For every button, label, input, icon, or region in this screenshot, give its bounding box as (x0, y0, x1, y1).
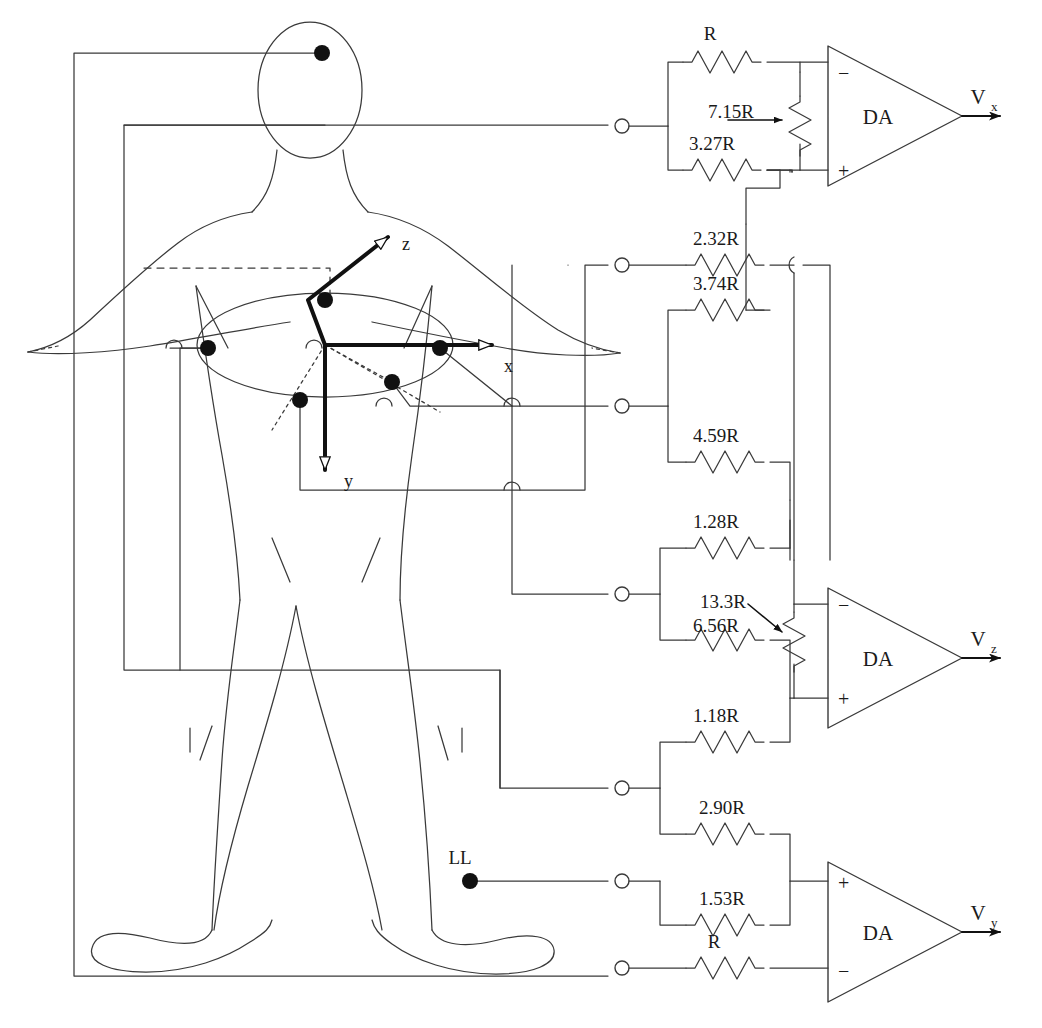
label-374R: 3.74R (693, 273, 739, 294)
resistor-118R (686, 731, 764, 753)
label-715R: 7.15R (708, 101, 754, 122)
pin-minus-vz: − (838, 594, 849, 616)
terminals (615, 119, 629, 975)
arm-right-lower (372, 322, 620, 355)
output-label-vz: V (970, 627, 985, 651)
shoulder-arm-left (28, 212, 252, 352)
detail-tick-2 (362, 538, 380, 582)
terminal-3[interactable] (615, 399, 629, 413)
dashed-lead-box (144, 268, 330, 300)
resistor-r-top (683, 51, 761, 73)
pin-plus-vz: + (838, 688, 849, 710)
label-153R: 1.53R (699, 888, 745, 909)
label-da-vx: DA (863, 105, 894, 129)
electrode-right-lateral (432, 340, 448, 356)
torso-right-edge (400, 286, 432, 600)
label-128R: 1.28R (693, 511, 739, 532)
pin-plus-vy: + (838, 872, 849, 894)
resistor-327R (683, 159, 761, 181)
wire-x-electrode (440, 348, 512, 406)
label-327R: 3.27R (689, 133, 735, 154)
wire-left-arm (180, 348, 208, 670)
axis-label-y: y (344, 471, 353, 491)
resistor-290R (686, 823, 764, 845)
electrode-left-lateral (200, 340, 216, 356)
resistor-153R (686, 914, 764, 936)
electrode-head (314, 45, 330, 61)
leg-left-inner (214, 606, 296, 930)
electrode-left-leg (462, 873, 478, 889)
label-r-bottom: R (708, 931, 721, 952)
label-459R: 4.59R (693, 425, 739, 446)
frank-lead-diagram: R 7.15R 3.27R 2.32R 3.74R 4.59R 1.28R 13… (0, 0, 1042, 1028)
neck-left (252, 150, 277, 212)
labels: R 7.15R 3.27R 2.32R 3.74R 4.59R 1.28R 13… (344, 23, 998, 982)
pin-plus-vx: + (838, 160, 849, 182)
leg-right-inner (296, 606, 382, 930)
output-label-vx: V (970, 85, 985, 109)
head-outline (258, 22, 362, 158)
leg-left-outer (212, 600, 240, 930)
amplifiers (828, 46, 1000, 1002)
resistor-r-bottom (686, 957, 764, 979)
terminal-7[interactable] (615, 961, 629, 975)
terminal-5[interactable] (615, 781, 629, 795)
body-outline (28, 22, 620, 974)
figure-canvas: R 7.15R 3.27R 2.32R 3.74R 4.59R 1.28R 13… (0, 0, 1042, 1028)
axis-label-x: x (504, 356, 513, 376)
electrode-chest-upper (317, 292, 333, 308)
electrode-label-ll: LL (448, 847, 471, 868)
detail-tick-4 (200, 726, 212, 760)
axis-label-z: z (402, 234, 410, 254)
detail-tick-1 (272, 538, 290, 582)
label-118R: 1.18R (693, 705, 739, 726)
terminal-4[interactable] (615, 587, 629, 601)
label-656R: 6.56R (693, 615, 739, 636)
z-axis-arrow (308, 237, 388, 345)
label-r-top: R (704, 23, 717, 44)
label-da-vy: DA (863, 921, 894, 945)
electrode-chest-lower-left (292, 392, 308, 408)
output-sub-vy: y (991, 915, 998, 930)
output-sub-vx: x (991, 99, 998, 114)
pointer-133R (748, 604, 782, 632)
neck-right (343, 150, 368, 212)
output-label-vy: V (970, 901, 985, 925)
pin-minus-vx: − (838, 62, 849, 84)
foot-left (91, 920, 272, 972)
electrodes (200, 45, 478, 889)
label-290R: 2.90R (699, 797, 745, 818)
arm-left-lower (28, 322, 290, 354)
wire-to-terminal-4 (512, 406, 608, 594)
terminal-6[interactable] (615, 874, 629, 888)
coordinate-axes (308, 237, 492, 470)
wire-head-branch-to-t5 (124, 125, 608, 788)
foot-right (372, 920, 554, 974)
label-133R: 13.3R (700, 591, 746, 612)
wire-left-chest-to-terminal-2 (300, 265, 608, 490)
label-da-vz: DA (863, 647, 894, 671)
resistor-pointers (728, 120, 782, 632)
pec-right (404, 286, 432, 348)
detail-tick-5 (438, 726, 448, 760)
construction-lines (272, 345, 440, 430)
terminal-1[interactable] (615, 119, 629, 133)
leg-right-outer (400, 600, 432, 930)
label-232R: 2.32R (693, 228, 739, 249)
resistor-128R (686, 537, 764, 559)
output-sub-vz: z (991, 641, 997, 656)
lead-wires (74, 53, 794, 976)
electrode-chest-lower-right (384, 374, 400, 390)
wire-head-to-bottom (74, 53, 608, 976)
resistor-459R (686, 451, 764, 473)
torso-left-edge (196, 286, 240, 600)
terminal-2[interactable] (615, 258, 629, 272)
pin-minus-vy: − (838, 960, 849, 982)
resistor-133R (783, 612, 805, 672)
